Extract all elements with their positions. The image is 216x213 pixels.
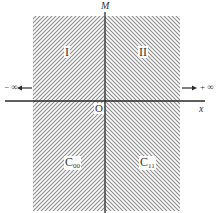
region-C11-label: C11 [139, 156, 156, 170]
region-C00-main: C [65, 155, 73, 169]
minus-infinity-label: − ∞ [3, 83, 19, 92]
region-C11-sub: 11 [148, 162, 155, 170]
region-C00-sub: 00 [73, 162, 80, 170]
region-C00-label: C00 [64, 156, 81, 170]
left-arrow-icon [17, 86, 32, 91]
plus-infinity-label: + ∞ [199, 83, 215, 92]
quadrant-diagram: M x O − ∞ + ∞ I II C00 C11 [0, 0, 216, 213]
region-I-hatch [33, 16, 105, 101]
region-II-label: II [138, 46, 148, 58]
m-axis-label: M [100, 1, 110, 11]
x-axis-label: x [198, 104, 204, 114]
right-arrow-icon [182, 86, 197, 91]
region-C11-main: C [140, 155, 148, 169]
region-I-label: I [64, 46, 70, 58]
origin-label: O [94, 103, 104, 114]
diagram-canvas [0, 0, 216, 213]
